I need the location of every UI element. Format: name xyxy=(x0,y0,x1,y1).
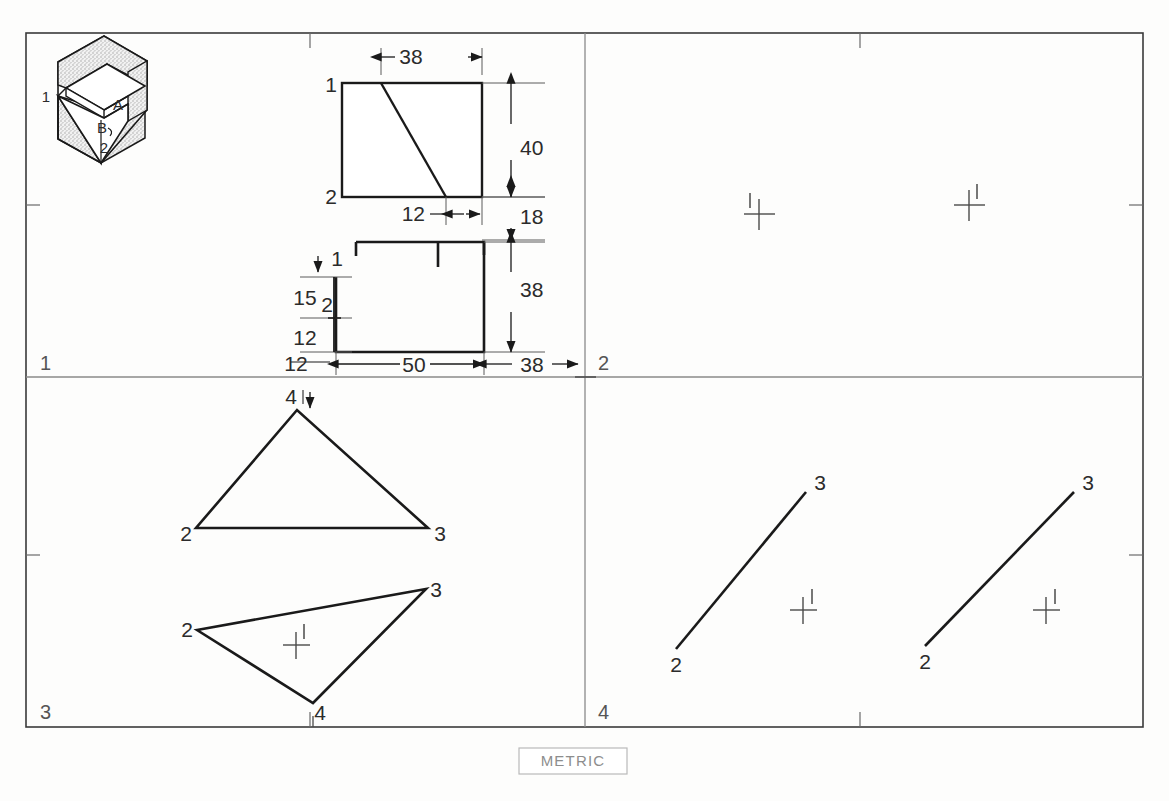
top-view-dim-18: 18 xyxy=(482,186,545,240)
top-view-dim-12: 12 xyxy=(402,197,482,225)
upper-triangle-vertex-2: 2 xyxy=(180,522,192,545)
dim-label-12-bottom: 12 xyxy=(284,352,307,375)
metric-label: METRIC xyxy=(541,752,606,769)
segment-right-crosshair xyxy=(1033,589,1060,624)
dim-label-50: 50 xyxy=(402,353,425,376)
top-view-vertex-1: 1 xyxy=(325,73,337,96)
dim-label-18: 18 xyxy=(520,205,543,228)
quadrant-label-2: 2 xyxy=(598,352,609,374)
upper-triangle-vertex-4: 4 xyxy=(285,385,297,408)
q2-crosshair-right xyxy=(954,184,985,221)
drawing-sheet: A B 1 2 38 40 xyxy=(0,0,1169,801)
top-view-dim-40: 40 xyxy=(482,83,545,197)
upper-triangle xyxy=(196,390,428,528)
top-view-rectangle xyxy=(342,83,482,197)
pictorial-face-label-b: B xyxy=(97,119,107,136)
top-view-dim-38: 38 xyxy=(381,45,482,75)
pictorial-vertex-2: 2 xyxy=(100,139,108,156)
quadrant-label-3: 3 xyxy=(40,701,51,723)
quadrant-label-1: 1 xyxy=(40,352,51,374)
lower-triangle-vertex-3: 3 xyxy=(430,578,442,601)
front-view-vertex-2: 2 xyxy=(321,293,333,316)
segment-right-label-3: 3 xyxy=(1082,471,1094,494)
quadrant-dividers xyxy=(26,33,1143,727)
top-view-vertex-2: 2 xyxy=(325,185,337,208)
upper-triangle-vertex-3: 3 xyxy=(434,522,446,545)
dim-label-38-right: 38 xyxy=(520,278,543,301)
segment-left-crosshair xyxy=(790,589,817,624)
segment-left-label-2: 2 xyxy=(670,653,682,676)
front-view-bottom-dims: 12 50 38 xyxy=(284,352,578,376)
dim-label-38-top: 38 xyxy=(399,45,422,68)
dim-label-38-bottom: 38 xyxy=(520,353,543,376)
front-view-vertex-1: 1 xyxy=(331,247,343,270)
segment-left-label-3: 3 xyxy=(814,471,826,494)
drawing-canvas: A B 1 2 38 40 xyxy=(0,0,1169,801)
front-view-dim-stack: 1 15 2 12 xyxy=(293,247,352,352)
front-view-dim-38-right: 38 xyxy=(484,242,545,352)
segment-right xyxy=(925,492,1074,646)
front-view-profile xyxy=(336,242,484,352)
q2-crosshair-left xyxy=(744,193,775,230)
lower-triangle-crosshair xyxy=(283,624,310,659)
lower-triangle-vertex-4: 4 xyxy=(314,701,326,724)
segment-right-label-2: 2 xyxy=(919,650,931,673)
dim-label-40: 40 xyxy=(520,136,543,159)
segment-left xyxy=(676,492,806,649)
lower-triangle xyxy=(197,589,426,703)
pictorial-face-label-a: A xyxy=(113,96,123,113)
dim-label-12-top: 12 xyxy=(402,202,425,225)
dim-label-12-stack: 12 xyxy=(293,326,316,349)
lower-triangle-vertex-2: 2 xyxy=(181,618,193,641)
metric-badge: METRIC xyxy=(519,748,627,774)
quadrant-label-4: 4 xyxy=(598,701,609,723)
pictorial-vertex-1: 1 xyxy=(42,88,50,105)
dim-label-15: 15 xyxy=(293,286,316,309)
